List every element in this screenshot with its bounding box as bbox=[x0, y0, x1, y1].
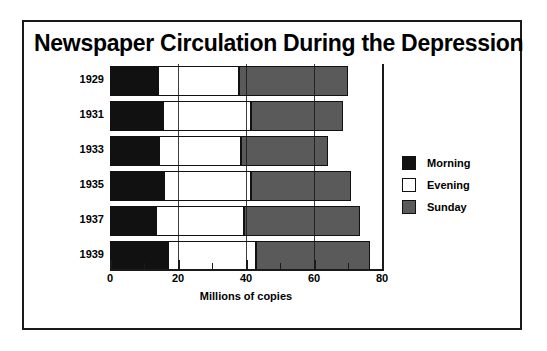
stacked-bar[interactable] bbox=[110, 206, 360, 236]
bar-segment-sunday[interactable] bbox=[251, 171, 351, 201]
bar-segment-morning[interactable] bbox=[110, 206, 156, 236]
legend-label: Morning bbox=[427, 157, 470, 169]
year-label: 1933 bbox=[54, 143, 104, 155]
plot-right-boundary bbox=[382, 64, 384, 271]
x-axis-major-tick bbox=[110, 260, 112, 269]
stacked-bar[interactable] bbox=[110, 66, 348, 96]
legend-swatch-sunday-icon bbox=[402, 200, 416, 214]
x-axis-line bbox=[110, 269, 384, 271]
year-label: 1937 bbox=[54, 213, 104, 225]
x-axis-tick-label: 40 bbox=[240, 272, 252, 284]
bar-row: 1931 bbox=[24, 101, 522, 131]
bar-segment-morning[interactable] bbox=[110, 66, 158, 96]
legend-item[interactable]: Sunday bbox=[402, 196, 512, 218]
x-axis-major-tick bbox=[246, 260, 248, 269]
x-axis-major-tick bbox=[178, 260, 180, 269]
bar-segment-evening[interactable] bbox=[156, 206, 244, 236]
year-label: 1935 bbox=[54, 178, 104, 190]
gridline bbox=[246, 64, 247, 268]
legend-item[interactable]: Evening bbox=[402, 174, 512, 196]
x-axis-major-tick bbox=[314, 260, 316, 269]
year-label: 1929 bbox=[54, 73, 104, 85]
x-axis-minor-tick bbox=[212, 263, 213, 269]
bar-segment-evening[interactable] bbox=[163, 101, 251, 131]
x-axis-title: Millions of copies bbox=[110, 290, 382, 302]
legend-label: Sunday bbox=[427, 201, 467, 213]
x-axis-tick-label: 0 bbox=[107, 272, 113, 284]
bar-segment-morning[interactable] bbox=[110, 136, 159, 166]
x-axis-tick-label: 20 bbox=[172, 272, 184, 284]
bar-segment-morning[interactable] bbox=[110, 241, 168, 271]
stacked-bar[interactable] bbox=[110, 241, 370, 271]
bar-segment-morning[interactable] bbox=[110, 171, 164, 201]
year-label: 1939 bbox=[54, 248, 104, 260]
stacked-bar[interactable] bbox=[110, 171, 351, 201]
legend-label: Evening bbox=[427, 179, 470, 191]
bar-segment-evening[interactable] bbox=[159, 136, 241, 166]
legend-swatch-evening-icon bbox=[402, 178, 416, 192]
x-axis-tick-label: 60 bbox=[308, 272, 320, 284]
gridline bbox=[314, 64, 315, 268]
year-label: 1931 bbox=[54, 108, 104, 120]
bar-segment-sunday[interactable] bbox=[251, 101, 343, 131]
bar-row: 1939 bbox=[24, 241, 522, 271]
legend: MorningEveningSunday bbox=[402, 152, 512, 218]
x-axis-major-tick bbox=[382, 260, 384, 269]
bar-row: 1929 bbox=[24, 66, 522, 96]
page-title: Newspaper Circulation During the Depress… bbox=[34, 28, 512, 58]
legend-swatch-morning-icon bbox=[402, 156, 416, 170]
stacked-bar[interactable] bbox=[110, 101, 343, 131]
bar-segment-sunday[interactable] bbox=[244, 206, 360, 236]
x-axis-minor-tick bbox=[280, 263, 281, 269]
bar-segment-sunday[interactable] bbox=[239, 66, 348, 96]
x-axis-tick-label: 80 bbox=[376, 272, 388, 284]
stacked-bar[interactable] bbox=[110, 136, 328, 166]
x-axis-minor-tick bbox=[348, 263, 349, 269]
bar-segment-evening[interactable] bbox=[158, 66, 240, 96]
chart-figure: Newspaper Circulation During the Depress… bbox=[22, 20, 522, 330]
bar-segment-morning[interactable] bbox=[110, 101, 163, 131]
gridline bbox=[178, 64, 179, 268]
legend-item[interactable]: Morning bbox=[402, 152, 512, 174]
x-axis-minor-tick bbox=[144, 263, 145, 269]
